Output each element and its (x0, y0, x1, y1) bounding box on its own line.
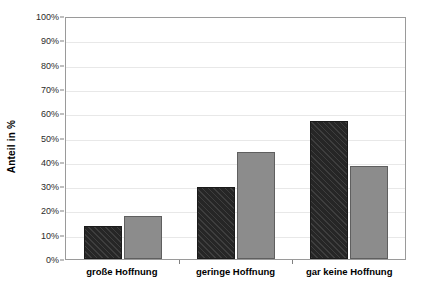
bar[interactable]: 38,1% (350, 166, 388, 259)
y-axis-tick-label: 50% (41, 134, 59, 144)
plot-area: 13,6%17,7%29,6%44,2%56,8%38,1% (65, 17, 406, 260)
bar[interactable]: 29,6% (197, 187, 235, 259)
y-axis-tickmark (60, 187, 64, 188)
bar[interactable]: 44,2% (237, 152, 275, 259)
y-axis-tick-label: 100% (36, 12, 59, 22)
y-axis-tickmark (60, 65, 64, 66)
y-axis-tickmark (60, 17, 64, 18)
y-axis-tickmark (60, 235, 64, 236)
x-axis-tickmark (292, 260, 293, 264)
x-axis-category-label: geringe Hoffnung (179, 266, 293, 277)
y-axis-tickmark (60, 162, 64, 163)
bar-wrapper: 13,6% (84, 18, 122, 259)
x-axis-tickmark (179, 260, 180, 264)
y-axis-tick-label: 70% (41, 85, 59, 95)
y-axis-tick-labels: 0%10%20%30%40%50%60%70%80%90%100% (22, 17, 64, 260)
bar-group-bars: 29,6%44,2% (179, 18, 292, 259)
bar-groups: 13,6%17,7%29,6%44,2%56,8%38,1% (66, 18, 405, 259)
bar-wrapper: 38,1% (350, 18, 388, 259)
y-axis-tickmark (60, 89, 64, 90)
x-axis-category-label: gar keine Hoffnung (292, 266, 406, 277)
bar[interactable]: 13,6% (84, 226, 122, 259)
bar-wrapper: 56,8% (310, 18, 348, 259)
bar-wrapper: 44,2% (237, 18, 275, 259)
y-axis-tick-label: 10% (41, 231, 59, 241)
bar-wrapper: 17,7% (124, 18, 162, 259)
bar-group-bars: 56,8%38,1% (292, 18, 405, 259)
y-axis-tick-label: 20% (41, 206, 59, 216)
x-axis-labels: große Hoffnunggeringe Hoffnunggar keine … (65, 266, 406, 277)
bar-group: 56,8%38,1% (292, 18, 405, 259)
bar-wrapper: 29,6% (197, 18, 235, 259)
y-axis-tickmark (60, 211, 64, 212)
y-axis-tick-label: 90% (41, 36, 59, 46)
bar-group: 29,6%44,2% (179, 18, 292, 259)
y-axis-tickmark (60, 114, 64, 115)
y-axis-tickmark (60, 41, 64, 42)
y-axis-tick-label: 80% (41, 61, 59, 71)
y-axis-tickmark (60, 260, 64, 261)
y-axis-tick-label: 0% (46, 255, 59, 265)
y-axis-tickmark (60, 138, 64, 139)
y-axis-tick-label: 40% (41, 158, 59, 168)
y-axis-title: Anteil in % (0, 0, 22, 293)
y-axis-tick-label: 30% (41, 182, 59, 192)
bar-group-bars: 13,6%17,7% (66, 18, 179, 259)
y-axis-tick-label: 60% (41, 109, 59, 119)
bar-chart: Anteil in % 0%10%20%30%40%50%60%70%80%90… (0, 0, 430, 293)
bar[interactable]: 56,8% (310, 121, 348, 259)
bar[interactable]: 17,7% (124, 216, 162, 259)
bar-group: 13,6%17,7% (66, 18, 179, 259)
x-axis-category-label: große Hoffnung (65, 266, 179, 277)
